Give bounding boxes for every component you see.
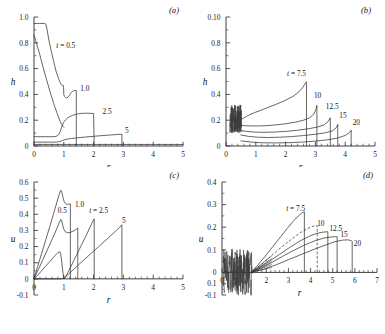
curve-d-0 <box>251 212 305 273</box>
x-axis-title-c: r <box>107 295 111 305</box>
x-tick-label-c-2: 2 <box>92 283 96 292</box>
x-tick-label-d-2: 2 <box>264 276 268 285</box>
y-tick-label-d-6: 0.4 <box>207 178 217 187</box>
y-axis-title-b: h <box>203 77 208 87</box>
x-tick-label-a-2: 2 <box>92 150 96 159</box>
x-tick-label-b-2: 2 <box>284 150 288 159</box>
panel-label-a: (a) <box>169 5 179 15</box>
x-tick-label-a-0: 0 <box>32 150 36 159</box>
x-tick-label-c-0: 0 <box>32 283 36 292</box>
x-tick-label-d-4: 4 <box>309 276 313 285</box>
panel-b: 00.20.40.60.80.10012345hr(b)t = 7.51012.… <box>192 0 385 167</box>
curve-label-a-1: 1.0 <box>80 84 89 93</box>
curve-d-3 <box>251 237 337 273</box>
y-tick-label-d-4: 0.2 <box>207 223 217 232</box>
panel-label-c: (c) <box>169 170 179 180</box>
y-tick-label-c-0: -0.1 <box>17 291 29 300</box>
panel-c: -0.100.10.20.30.40.50.6012345ur(c)0.51.0… <box>0 167 193 334</box>
y-tick-label-b-0: 0 <box>217 142 221 151</box>
y-axis-title-c: u <box>11 234 16 244</box>
y-tick-label-a-2: 0.4 <box>19 90 29 99</box>
x-tick-label-d-7: 7 <box>375 276 379 285</box>
y-tick-label-d-3: 0.1 <box>207 246 217 255</box>
panel-a: 00.20.40.60.81.0012345hr(a)t = 0.51.02.5… <box>0 0 193 167</box>
curve-label-val-d-0: = 7.5 <box>290 204 305 213</box>
curve-label-c-0: 0.5 <box>58 206 67 215</box>
y-tick-label-d-2: 0 <box>213 268 217 277</box>
curve-label-val-a-0: = 0.5 <box>60 41 75 50</box>
panel-label-b: (b) <box>361 5 371 15</box>
curve-label-b-0: t = 7.5 <box>287 69 306 78</box>
x-tick-label-c-3: 3 <box>122 283 126 292</box>
figure-container: 00.20.40.60.81.0012345hr(a)t = 0.51.02.5… <box>0 0 385 334</box>
curve-label-b-1: 10 <box>314 91 322 100</box>
y-tick-label-d-0: -0.1 <box>205 291 217 300</box>
y-tick-label-c-4: 0.3 <box>19 226 29 235</box>
y-tick-label-b-4: 0.8 <box>211 39 221 48</box>
y-tick-label-b-3: 0.6 <box>211 64 221 73</box>
y-tick-label-b-1: 0.2 <box>211 116 221 125</box>
x-tick-label-b-1: 1 <box>254 150 258 159</box>
x-tick-label-b-0: 0 <box>224 150 228 159</box>
x-tick-label-d-5: 5 <box>331 276 335 285</box>
curve-label-b-4: 20 <box>353 118 361 127</box>
curve-label-d-1: 10 <box>317 219 325 228</box>
y-tick-label-d-5: 0.3 <box>207 200 217 209</box>
curve-label-b-3: 15 <box>339 111 347 120</box>
x-tick-label-a-1: 1 <box>62 150 66 159</box>
curve-c-1 <box>34 219 78 278</box>
x-tick-label-d-3: 3 <box>287 276 291 285</box>
curve-b-4 <box>241 130 351 146</box>
y-tick-label-c-2: 0.1 <box>19 258 29 267</box>
plot-b: 00.20.40.60.80.10012345hr(b)t = 7.51012.… <box>192 0 385 167</box>
curve-label-b-2: 12.5 <box>326 102 339 111</box>
curve-label-d-0: t = 7.5 <box>286 204 305 213</box>
y-tick-label-c-5: 0.4 <box>19 210 29 219</box>
y-tick-label-a-4: 0.8 <box>19 39 29 48</box>
y-tick-label-a-1: 0.2 <box>19 116 29 125</box>
y-axis-title-d: u <box>199 234 204 244</box>
y-tick-label-c-6: 0.5 <box>19 194 29 203</box>
curve-label-c-1: 1.0 <box>75 200 84 209</box>
curve-label-val-b-0: = 7.5 <box>291 69 306 78</box>
panel-d: -0.10.100.10.20.30.401234567ur(d)t = 7.5… <box>192 167 385 334</box>
y-tick-label-a-0: 0 <box>25 142 29 151</box>
y-tick-label-c-1: 0 <box>25 275 29 284</box>
noise-trace-d-0 <box>223 250 224 293</box>
x-tick-label-a-3: 3 <box>122 150 126 159</box>
curve-label-d-3: 15 <box>340 230 348 239</box>
noise-trace-d-24 <box>250 253 251 265</box>
y-tick-label-d-1: 0.1 <box>207 279 217 288</box>
x-tick-label-b-4: 4 <box>343 150 347 159</box>
curve-label-a-3: 5 <box>125 126 129 135</box>
curve-label-d-4: 20 <box>354 239 362 248</box>
curve-b-1 <box>241 105 317 146</box>
curve-label-c-3: 5 <box>122 216 126 225</box>
x-tick-label-a-4: 4 <box>151 150 155 159</box>
x-tick-label-c-4: 4 <box>151 283 155 292</box>
curve-a-2 <box>34 113 94 146</box>
y-tick-label-a-3: 0.6 <box>19 64 29 73</box>
x-tick-label-c-5: 5 <box>181 283 185 292</box>
fan-ray-d-2 <box>251 262 272 273</box>
y-tick-label-c-7: 0.6 <box>19 178 29 187</box>
curve-label-a-2: 2.5 <box>103 107 112 116</box>
x-tick-label-b-3: 3 <box>314 150 318 159</box>
x-tick-label-b-5: 5 <box>373 150 377 159</box>
curve-label-c-2: t = 2.5 <box>89 206 108 215</box>
curve-label-a-0: t = 0.5 <box>56 41 75 50</box>
x-axis-title-d: r <box>298 288 302 298</box>
plot-d: -0.10.100.10.20.30.401234567ur(d)t = 7.5… <box>192 167 385 334</box>
plot-a: 00.20.40.60.81.0012345hr(a)t = 0.51.02.5… <box>0 0 193 167</box>
x-tick-label-d-6: 6 <box>353 276 357 285</box>
noise-trace-b-17 <box>241 110 242 132</box>
y-tick-label-c-3: 0.2 <box>19 242 29 251</box>
curve-c-0 <box>34 190 70 278</box>
y-tick-label-b-5: 0.10 <box>208 13 221 22</box>
noise-trace-d-25 <box>251 252 252 295</box>
x-tick-label-c-1: 1 <box>62 283 66 292</box>
y-axis-title-a: h <box>11 77 16 87</box>
plot-c: -0.100.10.20.30.40.50.6012345ur(c)0.51.0… <box>0 167 193 334</box>
y-tick-label-b-2: 0.4 <box>211 90 221 99</box>
y-tick-label-a-5: 1.0 <box>19 13 29 22</box>
